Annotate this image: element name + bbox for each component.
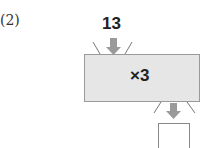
input-funnel-left — [93, 42, 100, 54]
output-funnel-left — [154, 102, 161, 113]
input-arrow-icon — [106, 38, 121, 55]
input-funnel-right — [125, 42, 132, 54]
output-funnel-right — [187, 102, 195, 113]
output-answer-box[interactable] — [158, 123, 190, 148]
output-arrow-icon — [166, 103, 181, 119]
